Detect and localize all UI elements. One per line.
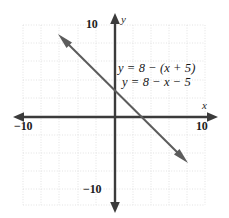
x-axis-tick-10: 10 <box>196 120 208 132</box>
y-axis-tick-negative-10: −10 <box>83 183 101 195</box>
x-axis-label: x <box>202 100 207 111</box>
y-axis-top-arrow <box>110 13 120 24</box>
y-axis-tick-10: 10 <box>86 18 98 30</box>
plotted-line <box>58 34 188 163</box>
equation-line-2: y = 8 − x − 5 <box>122 76 191 89</box>
x-axis-right-arrow <box>207 112 218 122</box>
y-axis-label: y <box>121 14 126 25</box>
y-axis-bottom-arrow <box>110 202 120 213</box>
graph-figure: 10 −10 −10 10 y x y = 8 − (x + 5) y = 8 … <box>0 0 229 218</box>
coordinate-plane <box>0 0 229 218</box>
x-axis-tick-negative-10: −10 <box>14 120 32 132</box>
equation-line-1: y = 8 − (x + 5) <box>118 62 195 75</box>
